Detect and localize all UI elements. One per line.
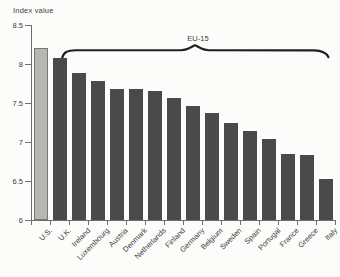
x-tick-15 [316, 221, 317, 225]
x-tick-1 [50, 221, 51, 225]
bar-france [281, 154, 296, 220]
x-tick-9 [202, 221, 203, 225]
x-tick-16 [335, 221, 336, 225]
y-tick-7 [25, 142, 31, 143]
bar-u-s [34, 48, 49, 220]
y-tick-label-6: 6 [2, 216, 23, 225]
x-tick-7 [164, 221, 165, 225]
bar-austria [110, 89, 125, 220]
bar-finland [167, 98, 182, 220]
x-tick-3 [88, 221, 89, 225]
y-tick-label-7-5: 7.5 [2, 99, 23, 108]
y-tick-label-6-5: 6.5 [2, 177, 23, 186]
x-tick-14 [297, 221, 298, 225]
y-tick-7-5 [25, 103, 31, 104]
x-label-greece: Greece [296, 226, 320, 250]
chart-container: Index value EU-15 8.587.576.56U.S.U.K.Ir… [0, 0, 340, 277]
x-tick-2 [69, 221, 70, 225]
x-label-u-s: U.S. [37, 226, 54, 243]
bar-ireland [72, 73, 87, 220]
x-tick-0 [31, 221, 32, 225]
bar-greece [300, 155, 315, 220]
x-tick-8 [183, 221, 184, 225]
eu15-group-label: EU-15 [176, 34, 220, 43]
y-axis-line [31, 25, 32, 221]
x-tick-10 [221, 221, 222, 225]
bar-portugal [262, 139, 277, 220]
bar-luxembourg [91, 81, 106, 220]
bar-u-k [53, 58, 68, 220]
bar-sweden [224, 123, 239, 221]
bar-netherlands [148, 91, 163, 220]
x-label-italy: Italy [323, 226, 339, 242]
bar-spain [243, 131, 258, 220]
y-tick-label-7: 7 [2, 138, 23, 147]
y-tick-8-5 [25, 25, 31, 26]
y-axis-title: Index value [13, 6, 54, 15]
x-tick-11 [240, 221, 241, 225]
y-tick-label-8: 8 [2, 60, 23, 69]
bar-italy [319, 179, 334, 220]
bar-germany [186, 106, 201, 220]
y-tick-6-5 [25, 181, 31, 182]
bar-denmark [129, 89, 144, 220]
x-tick-13 [278, 221, 279, 225]
y-tick-8 [25, 64, 31, 65]
x-tick-4 [107, 221, 108, 225]
bar-belgium [205, 113, 220, 220]
x-tick-12 [259, 221, 260, 225]
x-tick-5 [126, 221, 127, 225]
x-tick-6 [145, 221, 146, 225]
y-tick-label-8-5: 8.5 [2, 21, 23, 30]
